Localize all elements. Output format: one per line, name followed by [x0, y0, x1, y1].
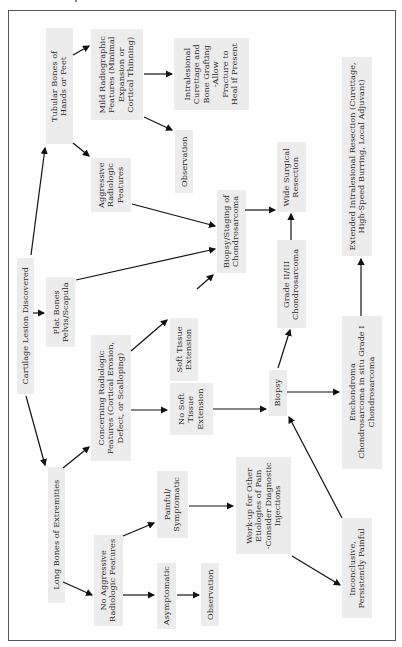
node-extended-intralesional-resection: Extended Intralesional Resection (Curett… [342, 57, 372, 256]
node-biopsy: Biopsy [269, 370, 287, 416]
node-concerning-features: Concerning Radiologic Features (Cortical… [91, 335, 131, 461]
node-biopsy-staging: Biopsy/Staging of Chondrosarcoma [217, 190, 246, 273]
node-workup-other-etiologies: Work-up for Other Etiologies of Pain -Co… [236, 457, 291, 554]
node-cartilage-lesion: Cartilage Lesion Discovered [17, 258, 34, 394]
node-observation-top: Observation [175, 130, 193, 193]
node-wide-surgical-resection: Wide Surgical Resection [277, 142, 306, 212]
node-enchondroma: Enchondroma Chondrosarcoma in situ Grade… [342, 316, 382, 469]
page-mark [75, 0, 77, 2]
node-intralesional-curettage: Intralesional Curettage and Bone Graftin… [174, 38, 249, 110]
node-no-soft-tissue-extension: No Soft Tissue Extension [170, 383, 213, 435]
node-aggressive-features: Aggressive Radiologic Features [91, 158, 131, 212]
node-asymptomatic: Asymptomatic [157, 563, 176, 629]
node-soft-tissue-extension: Soft Tissue Extension [170, 318, 198, 381]
node-mild-features: Mild Radiographic Features (Minimal Expa… [91, 29, 143, 120]
node-long-bones: Long Bones of Extremities [48, 467, 65, 603]
node-painful-symptomatic: Painful/ Symptomatic [157, 471, 188, 538]
node-observation-bottom: Observation [201, 563, 219, 626]
node-no-aggressive-features: No Aggressive Radiologic Features [94, 535, 123, 626]
node-tubular-bones: Tubular Bones of Hands or Feet [46, 28, 73, 144]
node-flat-bones: Flat Bones Pelvis/Scapula [46, 277, 75, 347]
node-grade-2-3-chondrosarcoma: Grade II/III Chondrosarcoma [277, 240, 306, 328]
node-inconclusive-persistently-painful: Inconclusive, Persistently Painful [342, 518, 372, 618]
